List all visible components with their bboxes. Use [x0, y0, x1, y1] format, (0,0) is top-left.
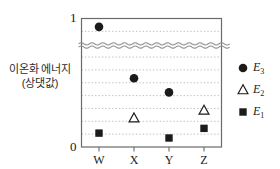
data-point-filled-circle: [130, 74, 139, 83]
data-point-filled-square: [95, 129, 102, 136]
x-axis-tick-label: Y: [159, 154, 179, 166]
legend-item: E3: [236, 57, 280, 79]
data-point-open-triangle: [199, 105, 209, 114]
gridlines: [82, 31, 222, 134]
data-points: [95, 23, 209, 142]
legend-marker-filled-square-icon: [236, 105, 250, 119]
legend-label: E3: [253, 60, 264, 76]
x-axis-tick-label: Z: [194, 154, 214, 166]
x-axis-tick-label: W: [89, 154, 109, 166]
legend-item: E2: [236, 79, 280, 101]
legend-label: E2: [253, 82, 264, 98]
axis-break-squiggle: [79, 43, 230, 48]
legend-item: E1: [236, 101, 280, 123]
legend: E3E2E1: [236, 57, 280, 123]
data-point-filled-circle: [95, 23, 104, 32]
x-axis-ticks: [99, 147, 204, 152]
legend-glyph: [238, 85, 248, 94]
ionization-energy-chart: 이온화 에너지 (상댓값) 1 0 WXYZ E3E2E1: [0, 0, 280, 169]
x-axis-tick-label: X: [124, 154, 144, 166]
data-point-filled-circle: [165, 88, 174, 97]
legend-glyph: [239, 108, 246, 115]
legend-glyph: [239, 64, 248, 73]
legend-marker-filled-circle-icon: [236, 61, 250, 75]
data-point-filled-square: [200, 125, 207, 132]
legend-marker-open-triangle-icon: [236, 83, 250, 97]
legend-label: E1: [253, 104, 264, 120]
data-point-filled-square: [165, 134, 172, 141]
data-point-open-triangle: [129, 113, 139, 122]
